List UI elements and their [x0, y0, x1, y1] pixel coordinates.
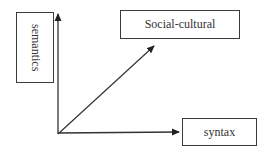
syntax-axis-arrow	[58, 132, 179, 133]
semantics-box: semantics	[16, 12, 54, 83]
syntax-box: syntax	[182, 118, 257, 146]
social-cultural-axis-arrow	[58, 46, 154, 134]
social-cultural-label: Social-cultural	[145, 17, 216, 32]
syntax-label: syntax	[204, 125, 235, 140]
social-cultural-box: Social-cultural	[120, 10, 240, 39]
semantics-label: semantics	[28, 24, 43, 71]
